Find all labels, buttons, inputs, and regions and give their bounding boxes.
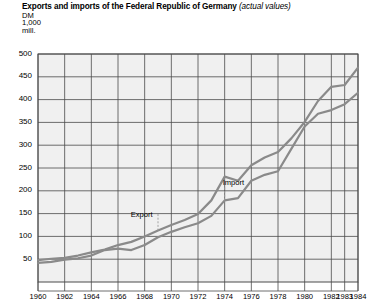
chart-svg [0, 0, 380, 308]
x-tick-label: 1970 [159, 293, 183, 301]
y-tick-label: 250 [8, 164, 32, 172]
y-tick-label: 100 [8, 232, 32, 240]
x-tick-label: 1964 [79, 293, 103, 301]
series-label-import: Import [223, 178, 245, 187]
x-tick-label: 1974 [213, 293, 237, 301]
series-label-export: Export [131, 210, 153, 219]
y-tick-label: 400 [8, 95, 32, 103]
x-tick-label: 1966 [106, 293, 130, 301]
plot-area: 50100150200250300350400450500 1960196219… [0, 0, 380, 308]
x-tick-label: 1968 [133, 293, 157, 301]
x-tick-label: 1962 [53, 293, 77, 301]
y-tick-label: 50 [8, 255, 32, 263]
y-tick-label: 350 [8, 118, 32, 126]
x-tick-label: 1972 [186, 293, 210, 301]
y-tick-label: 150 [8, 209, 32, 217]
chart-page: Exports and imports of the Federal Repub… [0, 0, 380, 308]
x-tick-label: 1984 [346, 293, 370, 301]
x-tick-label: 1978 [266, 293, 290, 301]
y-tick-label: 200 [8, 186, 32, 194]
y-tick-label: 500 [8, 50, 32, 58]
x-tick-label: 1976 [239, 293, 263, 301]
y-tick-label: 450 [8, 72, 32, 80]
x-tick-label: 1960 [26, 293, 50, 301]
y-tick-label: 300 [8, 141, 32, 149]
x-tick-label: 1980 [293, 293, 317, 301]
